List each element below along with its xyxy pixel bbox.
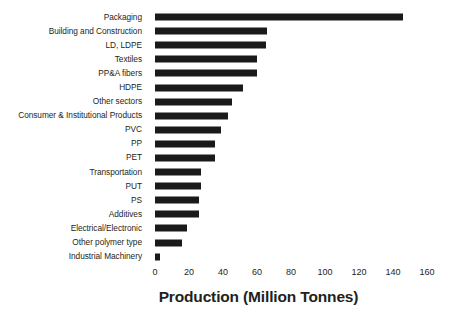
- bar-row: Consumer & Institutional Products: [0, 109, 452, 123]
- bar-track: [147, 236, 452, 250]
- bar: [155, 154, 215, 161]
- category-label: PET: [0, 153, 147, 162]
- bar: [155, 140, 215, 147]
- x-tick-label: 40: [218, 266, 228, 278]
- bar-track: [147, 207, 452, 221]
- bar-row: Industrial Machinery: [0, 250, 452, 264]
- bar-row: Packaging: [0, 10, 452, 24]
- bar-track: [147, 95, 452, 109]
- category-label: Transportation: [0, 168, 147, 177]
- bar: [155, 98, 232, 105]
- bar-track: [147, 250, 452, 264]
- bar: [155, 239, 182, 246]
- bar-track: [147, 137, 452, 151]
- bar-track: [147, 80, 452, 94]
- category-label: Additives: [0, 210, 147, 219]
- bar-row: Textiles: [0, 52, 452, 66]
- bar: [155, 28, 267, 35]
- category-label: Industrial Machinery: [0, 252, 147, 261]
- bar-track: [147, 66, 452, 80]
- bar: [155, 126, 221, 133]
- bar: [155, 183, 201, 190]
- bar-track: [147, 221, 452, 235]
- category-label: PUT: [0, 182, 147, 191]
- bar-row: PS: [0, 193, 452, 207]
- category-label: Consumer & Institutional Products: [0, 111, 147, 120]
- bar: [155, 112, 228, 119]
- bar: [155, 14, 403, 21]
- bar: [155, 225, 187, 232]
- bar-track: [147, 165, 452, 179]
- category-label: PP: [0, 139, 147, 148]
- category-label: Packaging: [0, 13, 147, 22]
- bar-row: Building and Construction: [0, 24, 452, 38]
- bar-row: PP&A fibers: [0, 66, 452, 80]
- bar-track: [147, 151, 452, 165]
- bar-row: Additives: [0, 207, 452, 221]
- bar: [155, 56, 257, 63]
- category-label: Textiles: [0, 55, 147, 64]
- bar-row: LD, LDPE: [0, 38, 452, 52]
- bar-track: [147, 193, 452, 207]
- bar: [155, 42, 266, 49]
- category-label: PS: [0, 196, 147, 205]
- category-label: HDPE: [0, 83, 147, 92]
- bar: [155, 211, 199, 218]
- bar-track: [147, 52, 452, 66]
- category-label: Building and Construction: [0, 27, 147, 36]
- bar-row: PP: [0, 137, 452, 151]
- bar-track: [147, 10, 452, 24]
- x-tick-label: 60: [252, 266, 262, 278]
- x-tick-label: 120: [351, 266, 366, 278]
- x-tick-label: 160: [419, 266, 434, 278]
- bar-row: Transportation: [0, 165, 452, 179]
- x-tick-label: 20: [184, 266, 194, 278]
- bar-row: PET: [0, 151, 452, 165]
- x-tick-label: 100: [317, 266, 332, 278]
- category-label: PVC: [0, 125, 147, 134]
- bar-track: [147, 24, 452, 38]
- bar-row: HDPE: [0, 80, 452, 94]
- bar: [155, 197, 199, 204]
- bar: [155, 84, 243, 91]
- chart-title: [0, 0, 452, 6]
- bar-track: [147, 38, 452, 52]
- category-label: Other polymer type: [0, 238, 147, 247]
- bar-row: Other sectors: [0, 95, 452, 109]
- bar: [155, 70, 257, 77]
- x-tick-label: 140: [385, 266, 400, 278]
- category-label: Other sectors: [0, 97, 147, 106]
- x-axis-title: Production (Million Tonnes): [0, 288, 452, 306]
- bar-chart-figure: PackagingBuilding and ConstructionLD, LD…: [0, 0, 452, 318]
- bar-row: PVC: [0, 123, 452, 137]
- x-axis: 020406080100120140160: [0, 266, 452, 284]
- category-label: PP&A fibers: [0, 69, 147, 78]
- category-label: LD, LDPE: [0, 41, 147, 50]
- bar-track: [147, 109, 452, 123]
- bar: [155, 253, 160, 260]
- bar-track: [147, 123, 452, 137]
- bar-row: PUT: [0, 179, 452, 193]
- bar-row: Other polymer type: [0, 236, 452, 250]
- plot-area: PackagingBuilding and ConstructionLD, LD…: [0, 10, 452, 266]
- bar-row: Electrical/Electronic: [0, 221, 452, 235]
- bar-track: [147, 179, 452, 193]
- bar: [155, 169, 201, 176]
- category-label: Electrical/Electronic: [0, 224, 147, 233]
- x-tick-label: 0: [152, 266, 157, 278]
- x-tick-label: 80: [286, 266, 296, 278]
